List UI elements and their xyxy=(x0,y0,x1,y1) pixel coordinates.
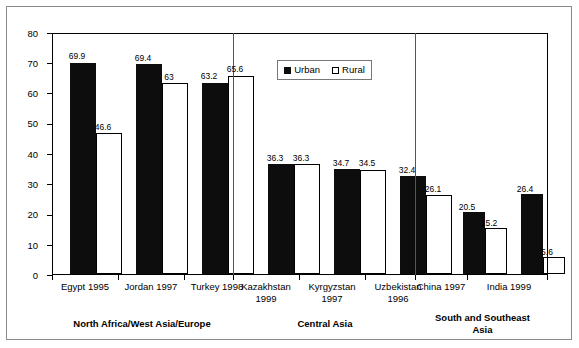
y-tick-label-20: 20 xyxy=(0,210,38,220)
group-label-central-asia-line1: Central Asia xyxy=(240,318,410,330)
x-label-jordan: Jordan 1997 xyxy=(116,281,186,293)
value-india-urban: 26.4 xyxy=(501,185,549,194)
x-label-kazakhstan: Kazakhstan 1999 xyxy=(231,281,301,304)
legend-entry-rural: Rural xyxy=(332,65,365,75)
legend-swatch-urban-icon xyxy=(284,67,291,74)
x-tick-5 xyxy=(365,275,366,280)
y-tick-label-10: 10 xyxy=(0,241,38,251)
value-india-rural: 5.6 xyxy=(523,248,571,257)
chart-legend: Urban Rural xyxy=(277,60,372,80)
value-egypt-rural: 46.6 xyxy=(78,123,128,132)
group-label-south-southeast-asia: South and Southeast Asia xyxy=(415,312,550,336)
bar-kyrgyzstan-urban xyxy=(334,169,360,274)
bar-jordan-urban xyxy=(136,64,162,274)
x-tick-3 xyxy=(233,275,234,280)
bar-turkey-urban xyxy=(202,83,228,274)
x-tick-7 xyxy=(467,275,468,280)
y-tick-label-80: 80 xyxy=(0,29,38,39)
x-label-china-line1: China 1997 xyxy=(409,281,473,293)
x-tick-0 xyxy=(52,275,53,280)
plot-right-edge xyxy=(547,33,548,275)
y-tick-label-70: 70 xyxy=(0,59,38,69)
legend-entry-urban: Urban xyxy=(284,65,320,75)
bar-kazakhstan-urban xyxy=(268,164,294,274)
x-label-jordan-line1: Jordan 1997 xyxy=(116,281,186,293)
value-uzbekistan-urban: 32.4 xyxy=(382,166,432,175)
value-china-rural: 15.2 xyxy=(465,219,513,228)
legend-label-urban: Urban xyxy=(294,65,320,75)
group-label-south-southeast-asia-line1: South and Southeast xyxy=(415,312,550,324)
legend-label-rural: Rural xyxy=(342,65,365,75)
bar-turkey-rural xyxy=(228,76,254,274)
value-uzbekistan-rural: 26.1 xyxy=(408,185,458,194)
y-tick-label-40: 40 xyxy=(0,150,38,160)
value-jordan-urban: 69.4 xyxy=(118,54,168,63)
chart-figure: 80 70 60 50 40 30 20 10 0 Percentage xyxy=(0,0,579,348)
y-tick-label-50: 50 xyxy=(0,119,38,129)
x-tick-1 xyxy=(118,275,119,280)
bar-india-urban xyxy=(521,194,543,274)
y-tick-label-0: 0 xyxy=(0,271,38,281)
value-turkey-rural: 65.6 xyxy=(210,65,260,74)
bar-kyrgyzstan-rural xyxy=(360,170,386,274)
group-label-north-africa-line1: North Africa/West Asia/Europe xyxy=(52,318,232,330)
bar-egypt-rural xyxy=(96,133,122,274)
value-egypt-urban: 69.9 xyxy=(52,52,102,61)
legend-swatch-rural-icon xyxy=(332,67,339,74)
x-label-india: India 1999 xyxy=(477,281,541,293)
x-label-egypt: Egypt 1995 xyxy=(50,281,120,293)
x-label-kyrgyzstan: Kyrgyzstan 1997 xyxy=(297,281,367,304)
x-label-india-line1: India 1999 xyxy=(477,281,541,293)
x-label-china: China 1997 xyxy=(409,281,473,293)
x-label-uzbekistan-line2: 1996 xyxy=(363,293,433,305)
x-tick-6 xyxy=(415,275,416,280)
x-label-kazakhstan-line2: 1999 xyxy=(231,293,301,305)
bar-jordan-rural xyxy=(162,83,188,274)
bar-kazakhstan-rural xyxy=(294,164,320,274)
x-tick-8 xyxy=(547,275,548,280)
x-label-egypt-line1: Egypt 1995 xyxy=(50,281,120,293)
bar-egypt-urban xyxy=(70,63,96,274)
bar-china-rural xyxy=(485,228,507,274)
region-divider-2 xyxy=(415,33,416,276)
value-china-urban: 20.5 xyxy=(443,203,491,212)
x-tick-4 xyxy=(299,275,300,280)
group-label-south-southeast-asia-line2: Asia xyxy=(415,324,550,336)
x-label-kazakhstan-line1: Kazakhstan xyxy=(231,281,301,293)
x-tick-2 xyxy=(184,275,185,280)
group-label-central-asia: Central Asia xyxy=(240,318,410,330)
group-label-north-africa: North Africa/West Asia/Europe xyxy=(52,318,232,330)
x-label-kyrgyzstan-line1: Kyrgyzstan xyxy=(297,281,367,293)
y-tick-label-60: 60 xyxy=(0,89,38,99)
y-tick-label-30: 30 xyxy=(0,180,38,190)
x-label-kyrgyzstan-line2: 1997 xyxy=(297,293,367,305)
